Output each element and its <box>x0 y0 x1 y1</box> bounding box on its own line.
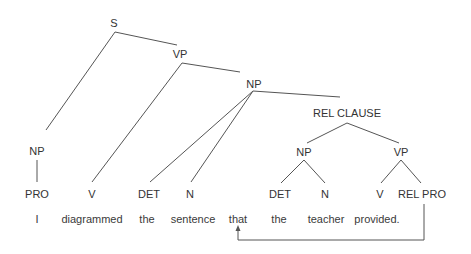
pos-tag: N <box>186 188 194 200</box>
word: the <box>271 213 286 225</box>
edge-s-vp <box>115 32 177 45</box>
pos-tag: V <box>376 188 383 200</box>
node-np-subject: NP <box>29 145 44 157</box>
pos-tag: V <box>88 188 95 200</box>
edge-relvp-relpro <box>401 160 421 183</box>
edge-vp-np <box>182 63 240 72</box>
word: the <box>139 213 154 225</box>
node-vp-main: VP <box>173 48 188 60</box>
word: sentence <box>171 213 216 225</box>
edge-np-det <box>150 91 253 182</box>
node-vp-rel: VP <box>394 146 409 158</box>
node-s: S <box>110 17 117 29</box>
word: diagrammed <box>61 213 122 225</box>
edge-relvp-v <box>381 160 401 183</box>
arrowhead-icon <box>236 225 241 231</box>
word: that <box>229 213 247 225</box>
word: I <box>35 213 38 225</box>
pos-tag: DET <box>138 188 160 200</box>
word: teacher <box>308 213 345 225</box>
edge-relnp-det <box>281 160 304 183</box>
syntax-tree-diagram: S VP NP REL CLAUSE NP NP VP PRO V DET N … <box>0 0 471 254</box>
edge-relnp-n <box>304 160 325 183</box>
pos-tag: DET <box>269 188 291 200</box>
edge-relclause-vp <box>347 123 399 143</box>
edge-vp-v <box>92 63 182 182</box>
edge-np-n <box>191 91 253 182</box>
word: provided. <box>354 213 399 225</box>
edge-s-np <box>46 32 115 130</box>
edge-np-relclause <box>253 91 340 97</box>
edge-relclause-np <box>307 123 347 143</box>
pos-tag: PRO <box>25 188 49 200</box>
pos-tag: REL PRO <box>398 188 446 200</box>
node-np-rel: NP <box>296 146 311 158</box>
pos-tag: N <box>321 188 329 200</box>
node-np-object: NP <box>246 78 261 90</box>
node-rel-clause: REL CLAUSE <box>313 107 381 119</box>
